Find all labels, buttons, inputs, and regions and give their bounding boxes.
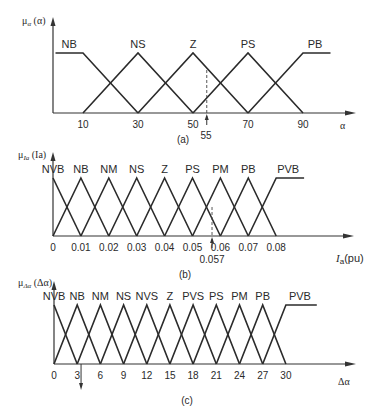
set-label-pb: PB <box>255 290 270 302</box>
x-axis-label: Δα <box>338 376 350 387</box>
x-tick-label: 21 <box>211 370 223 381</box>
set-label-pvb: PVB <box>277 163 299 175</box>
membership-pb <box>248 53 331 113</box>
set-label-nb: NB <box>62 38 77 50</box>
set-label-ns: NS <box>116 290 131 302</box>
x-tick-label: 30 <box>132 119 144 130</box>
membership-nb <box>56 53 139 113</box>
x-tick-label: 0 <box>51 370 57 381</box>
set-label-ns: NS <box>130 38 145 50</box>
membership-nb <box>54 305 100 364</box>
fuzzy-membership-figure: NBNSZPSPB103050709055μα (α)α(a) NVBNBNMN… <box>0 0 374 417</box>
panel-caption: (b) <box>179 269 191 280</box>
set-label-nvs: NVS <box>135 290 158 302</box>
panel-caption: (c) <box>181 395 193 406</box>
up-arrow-icon <box>210 237 214 243</box>
membership-pm <box>193 178 249 236</box>
set-label-z: Z <box>167 290 174 302</box>
x-axis-label: α <box>340 120 346 131</box>
x-tick-label: 24 <box>234 370 246 381</box>
marker-value-label: 55 <box>200 130 212 141</box>
membership-z <box>147 305 193 364</box>
set-label-pb: PB <box>308 38 323 50</box>
set-label-nm: NM <box>92 290 109 302</box>
x-axis-arrow-icon <box>343 234 354 239</box>
x-axis-arrow-icon <box>345 111 356 116</box>
set-label-pvs: PVS <box>182 290 204 302</box>
x-tick-label: 0.02 <box>99 242 119 253</box>
membership-nm <box>77 305 123 364</box>
x-axis-arrow-icon <box>345 362 356 367</box>
membership-pm <box>216 305 262 364</box>
set-label-z: Z <box>161 163 168 175</box>
x-tick-label: 9 <box>121 370 127 381</box>
y-axis-arrow-icon <box>51 17 56 26</box>
x-tick-label: 15 <box>164 370 176 381</box>
x-tick-label: 27 <box>257 370 269 381</box>
membership-z <box>138 53 248 113</box>
x-tick-label: 6 <box>98 370 104 381</box>
membership-z <box>137 178 193 236</box>
set-label-pm: PM <box>231 290 248 302</box>
set-label-pvb: PVB <box>289 290 311 302</box>
up-arrow-icon <box>205 114 209 120</box>
x-tick-label: 30 <box>280 370 292 381</box>
membership-nm <box>81 178 137 236</box>
membership-nb <box>53 178 109 236</box>
x-tick-label: 0.06 <box>211 242 231 253</box>
set-label-pb: PB <box>241 163 256 175</box>
membership-pb <box>240 305 286 364</box>
set-label-nvb: NVB <box>43 290 66 302</box>
set-label-nm: NM <box>100 163 117 175</box>
x-tick-label: 0 <box>50 242 56 253</box>
membership-pvb <box>263 305 317 364</box>
membership-nvs <box>124 305 170 364</box>
set-label-nvb: NVB <box>42 163 65 175</box>
x-tick-label: 12 <box>141 370 153 381</box>
x-tick-label: 10 <box>77 119 89 130</box>
panel-caption: (a) <box>177 134 189 145</box>
x-tick-label: 70 <box>242 119 254 130</box>
x-tick-label: 50 <box>187 119 199 130</box>
set-label-ps: PS <box>241 38 256 50</box>
y-axis-label: μα (α) <box>22 15 45 28</box>
x-tick-label: 0.01 <box>71 242 91 253</box>
membership-ps <box>193 305 239 364</box>
marker-value-label: 0.057 <box>199 254 224 265</box>
panel-a-alpha-membership: NBNSZPSPB103050709055μα (α)α(a) <box>22 15 356 145</box>
x-tick-label: 90 <box>297 119 309 130</box>
set-label-z: Z <box>190 38 197 50</box>
membership-pb <box>220 178 276 236</box>
set-label-pm: PM <box>212 163 229 175</box>
set-label-nb: NB <box>73 163 88 175</box>
y-axis-label: μΔα (Δα) <box>18 277 52 290</box>
y-axis-arrow-icon <box>51 152 56 161</box>
membership-ns <box>109 178 165 236</box>
x-tick-label: 0.05 <box>183 242 203 253</box>
y-axis-arrow-icon <box>52 281 57 290</box>
membership-pvb <box>248 178 304 236</box>
x-tick-label: 18 <box>188 370 200 381</box>
x-tick-label: 0.04 <box>155 242 175 253</box>
set-label-ps: PS <box>209 290 224 302</box>
membership-ps <box>193 53 303 113</box>
x-tick-label: 0.08 <box>266 242 286 253</box>
down-arrow-icon <box>79 383 83 390</box>
x-tick-label: 3 <box>74 370 80 381</box>
x-axis-label: Ia(pu) <box>335 252 364 266</box>
x-tick-label: 0.03 <box>127 242 147 253</box>
y-axis-label: μIa (Ia) <box>18 149 46 162</box>
membership-pvs <box>170 305 216 364</box>
membership-ns <box>83 53 193 113</box>
set-label-ns: NS <box>129 163 144 175</box>
panel-c-delta-alpha-membership: NVBNBNMNSNVSZPVSPSPMPBPVB036912151821242… <box>18 277 356 406</box>
x-tick-label: 0.07 <box>239 242 259 253</box>
set-label-ps: PS <box>185 163 200 175</box>
membership-ns <box>100 305 146 364</box>
set-label-nb: NB <box>70 290 85 302</box>
panel-b-current-membership: NVBNBNMNSZPSPMPBPVB00.010.020.030.040.05… <box>18 149 364 280</box>
